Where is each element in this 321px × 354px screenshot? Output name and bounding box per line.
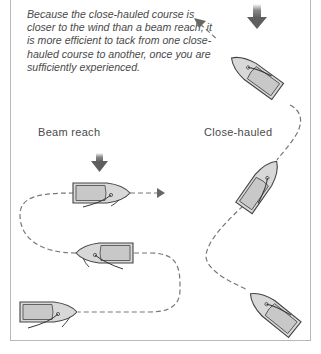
beam-boat-2-icon <box>76 243 133 269</box>
beam-boat-1-icon <box>73 183 130 207</box>
close-wind-arrow-icon <box>247 4 267 29</box>
beam-wind-arrow-icon <box>91 153 108 172</box>
sailing-diagram <box>0 0 321 354</box>
close-boat-3-icon <box>244 286 301 337</box>
beam-course-arrowhead-icon <box>157 188 165 198</box>
close-boat-1-icon <box>226 50 284 100</box>
beam-boat-3-icon <box>20 302 77 328</box>
close-course-arrowhead-icon <box>194 18 206 28</box>
close-boat-2-icon <box>236 156 285 214</box>
